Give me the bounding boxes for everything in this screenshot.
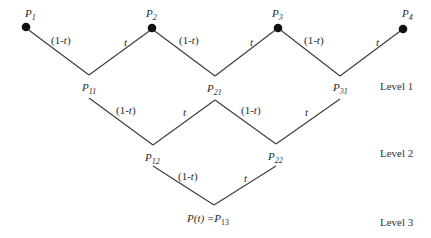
level-3-label: Level 3 [380,216,414,228]
label-p2: P2 [145,7,157,22]
label-p4: P4 [401,7,413,22]
weight-p21-p22: (1-t) [241,104,261,117]
label-p31: P31 [332,81,348,96]
level-1-edges [26,28,403,76]
edge-p2-p11 [89,29,152,75]
control-point-dot-p2 [148,24,157,33]
label-p11: P11 [81,81,96,96]
level-3-edges [153,166,276,205]
label-p1: P1 [24,7,36,22]
label-p3: P3 [271,7,283,22]
level-2-label: Level 2 [380,147,413,159]
edge-p4-p31 [340,29,403,76]
control-point-dot-p4 [399,25,408,34]
weight-p3-p31: (1-t) [304,34,324,47]
label-p22: P22 [267,150,283,165]
control-point-dot-p1 [22,23,31,32]
label-p21: P21 [206,82,222,97]
weight-p2-p11: t [124,36,128,48]
label-p12: P12 [144,151,160,166]
weight-p21-p12: t [183,106,187,118]
weight-p1-p11: (1-t) [51,34,71,47]
control-point-dot-p3 [274,24,283,33]
weight-p11-p12: (1-t) [116,104,136,117]
weight-p12-p13: (1-t) [178,170,198,183]
level-1-label: Level 1 [380,80,413,92]
edge-p3-p21 [215,28,278,76]
label-p13: P(t) =P13 [186,212,229,227]
de-casteljau-diagram: P1 P2 P3 P4 P11 P21 P31 P12 P22 P(t) =P1… [0,0,431,238]
weight-p2-p21: (1-t) [179,34,199,47]
weight-p22-p13: t [244,172,248,184]
weight-p31-p22: t [305,106,309,118]
